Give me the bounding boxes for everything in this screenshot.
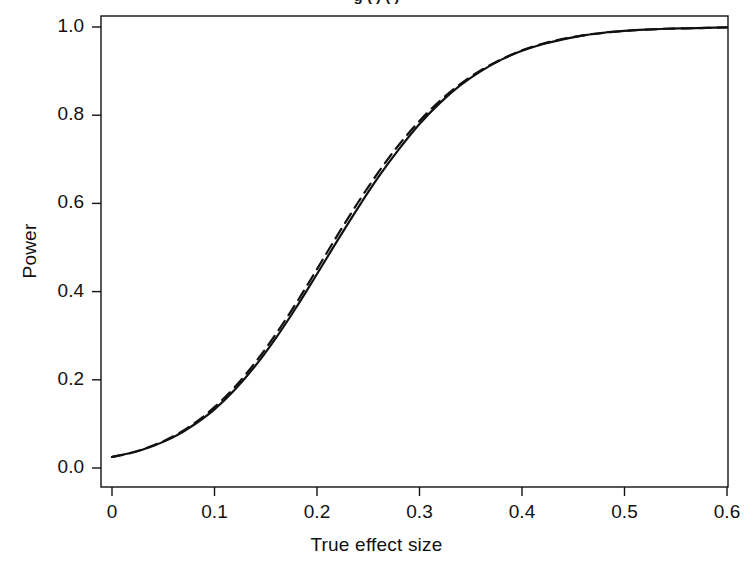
figure-page: g ( ) ( ) 00.10.20.30.40.50.6 0.00.20.40… <box>0 0 753 586</box>
y-tick-label: 0.8 <box>24 103 84 125</box>
y-axis-label: Power <box>19 161 41 341</box>
x-tick-label: 0.6 <box>697 501 753 523</box>
axis-ticks <box>92 27 727 496</box>
chart-svg <box>0 0 753 586</box>
x-tick-label: 0.4 <box>492 501 552 523</box>
data-curves <box>112 27 727 457</box>
x-tick-label: 0 <box>82 501 142 523</box>
x-tick-label: 0.3 <box>390 501 450 523</box>
y-tick-label: 0.0 <box>24 456 84 478</box>
plot-area: 00.10.20.30.40.50.6 0.00.20.40.60.81.0 T… <box>0 0 753 586</box>
y-tick-label: 0.2 <box>24 368 84 390</box>
x-axis-label: True effect size <box>0 534 753 556</box>
axis-box <box>101 16 728 487</box>
y-tick-label: 1.0 <box>24 15 84 37</box>
x-tick-label: 0.5 <box>595 501 655 523</box>
x-tick-label: 0.1 <box>185 501 245 523</box>
x-tick-label: 0.2 <box>287 501 347 523</box>
